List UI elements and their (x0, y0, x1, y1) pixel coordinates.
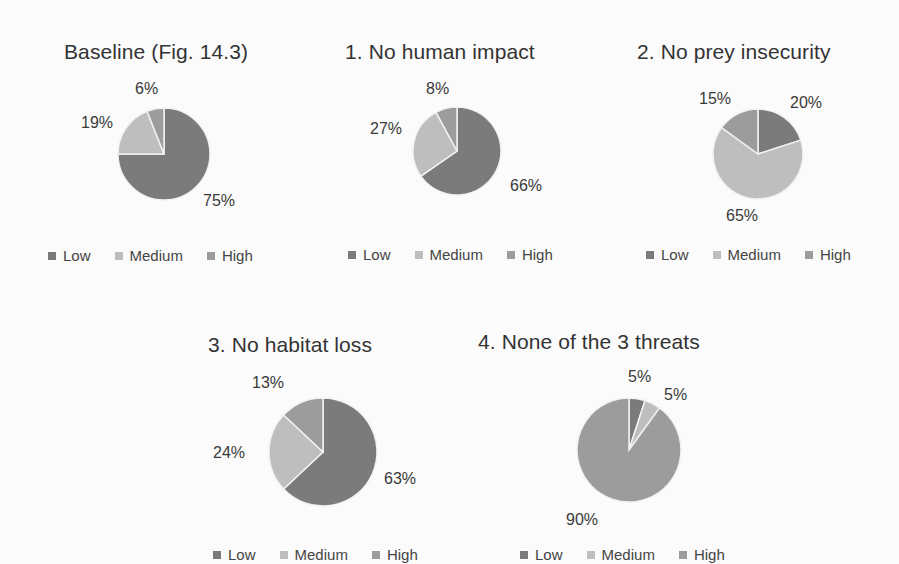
legend-item-low: Low (520, 546, 563, 563)
pie (0, 0, 899, 564)
legend-item-medium: Medium (587, 546, 655, 563)
legend-swatch-icon (587, 551, 595, 559)
legend-swatch-icon (679, 551, 687, 559)
legend: LowMediumHigh (520, 546, 749, 563)
data-label-high: 90% (566, 511, 598, 529)
data-label-low: 5% (628, 368, 651, 386)
legend-label: Low (535, 546, 563, 563)
pie-slice-high (577, 398, 681, 502)
legend-item-high: High (679, 546, 725, 563)
legend-label: Medium (602, 546, 655, 563)
legend-label: High (694, 546, 725, 563)
data-label-medium: 5% (664, 386, 687, 404)
legend-swatch-icon (520, 551, 528, 559)
